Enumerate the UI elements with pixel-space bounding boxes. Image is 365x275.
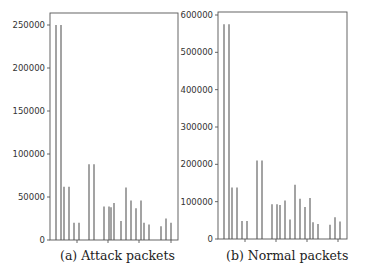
normal-packets-caption: (b) Normal packets	[226, 248, 348, 263]
y-tick-label: 400000	[181, 85, 213, 95]
y-tick-label: 300000	[181, 122, 213, 132]
y-tick-label: 100000	[181, 197, 213, 207]
normal-packets-chart: 0100000200000300000400000500000600000	[0, 0, 365, 275]
y-tick-label: 0	[208, 234, 213, 244]
normal-packets-panel: 0100000200000300000400000500000600000 (b…	[0, 0, 365, 275]
y-tick-label: 600000	[181, 10, 213, 20]
y-tick-label: 500000	[181, 47, 213, 57]
y-tick-label: 200000	[181, 159, 213, 169]
